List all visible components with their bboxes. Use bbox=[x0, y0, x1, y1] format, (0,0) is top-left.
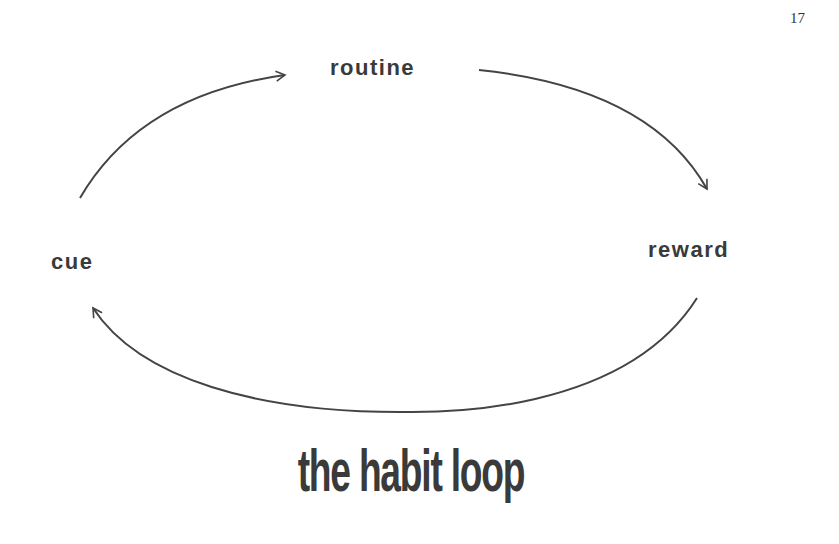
arrow-routine-to-reward bbox=[479, 70, 707, 189]
arrow-reward-to-cue bbox=[93, 298, 697, 412]
diagram-title: the habit loop bbox=[151, 436, 671, 505]
node-routine: routine bbox=[330, 55, 415, 81]
node-cue: cue bbox=[51, 249, 93, 275]
arrow-cue-to-routine bbox=[80, 75, 285, 198]
node-reward: reward bbox=[648, 237, 729, 263]
